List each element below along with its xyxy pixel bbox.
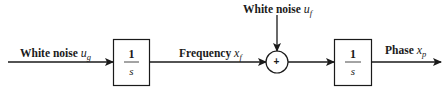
block-diagram <box>0 0 448 92</box>
block-1-numerator: 1 <box>113 48 150 60</box>
phase-label: Phase xp <box>385 44 426 57</box>
frequency-label-sub: f <box>239 52 241 62</box>
input-label-uf-sub: f <box>310 8 312 18</box>
input-label-ug: White noise ug <box>20 47 91 60</box>
frequency-label: Frequency xf <box>179 47 242 60</box>
input-label-uf-text: White noise <box>243 3 304 15</box>
input-label-uf-var: u <box>304 2 310 16</box>
input-label-ug-var: u <box>81 46 87 60</box>
input-label-ug-text: White noise <box>20 47 81 59</box>
block-2-numerator: 1 <box>334 48 372 60</box>
plus-sign: + <box>274 57 280 67</box>
phase-label-sub: p <box>422 49 426 59</box>
input-label-uf: White noise uf <box>243 3 312 16</box>
block-1-denominator: s <box>113 66 150 77</box>
phase-label-text: Phase <box>385 44 417 56</box>
frequency-label-text: Frequency <box>179 47 234 59</box>
input-label-ug-sub: g <box>87 52 91 62</box>
block-2-denominator: s <box>334 66 372 77</box>
